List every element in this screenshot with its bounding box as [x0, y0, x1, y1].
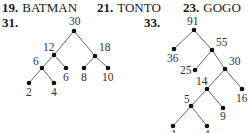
tree-node — [27, 81, 32, 86]
tree-node-label: 1 — [171, 128, 177, 133]
tree-edge — [191, 106, 207, 126]
tree-edge — [54, 31, 74, 55]
tree-node — [192, 28, 197, 33]
tree-node — [172, 47, 177, 52]
tree-node-label: 30 — [69, 15, 81, 27]
tree-node — [52, 81, 57, 86]
tree-edge — [195, 50, 212, 70]
tree-edge — [174, 30, 194, 49]
tree-figure-33: 913655253014165914 — [167, 15, 248, 133]
tree-node — [106, 66, 111, 71]
tree-diagrams: 3012186681024913655253014165914 — [0, 0, 249, 133]
tree-node-label: 6 — [33, 55, 39, 67]
tree-figure-31: 3012186681024 — [26, 15, 114, 98]
tree-edge — [42, 68, 54, 83]
tree-edge — [42, 55, 54, 68]
tree-node-label: 9 — [220, 110, 226, 122]
tree-edge — [173, 106, 191, 126]
tree-node-label: 5 — [184, 93, 190, 105]
tree-node-label: 30 — [229, 55, 241, 67]
tree-node-label: 2 — [26, 86, 32, 98]
tree-node — [223, 67, 228, 72]
tree-node-label: 55 — [216, 36, 228, 48]
tree-node-label: 4 — [204, 128, 210, 133]
tree-edge — [54, 55, 66, 68]
tree-node-label: 25 — [180, 64, 192, 76]
tree-node — [40, 66, 45, 71]
tree-node-label: 4 — [51, 86, 57, 98]
tree-edge — [207, 89, 223, 108]
tree-node-label: 36 — [167, 52, 179, 64]
tree-node-label: 10 — [102, 71, 114, 83]
tree-node-label: 8 — [81, 71, 87, 83]
tree-edge — [212, 50, 225, 69]
tree-node — [52, 53, 57, 58]
tree-node-label: 6 — [63, 71, 69, 83]
tree-node-label: 14 — [196, 75, 208, 87]
tree-node-label: 91 — [187, 15, 199, 27]
tree-node — [82, 66, 87, 71]
tree-edge — [207, 69, 225, 89]
tree-node — [210, 48, 215, 53]
tree-edge — [29, 68, 42, 83]
tree-node — [193, 68, 198, 73]
tree-node-label: 18 — [99, 41, 111, 53]
tree-edge — [74, 31, 95, 56]
tree-node — [240, 87, 245, 92]
tree-node-label: 12 — [43, 41, 55, 53]
tree-node — [72, 29, 77, 34]
tree-edge — [95, 56, 108, 68]
tree-node — [64, 66, 69, 71]
tree-edge — [191, 89, 207, 106]
tree-edge — [194, 30, 212, 50]
tree-edge — [225, 69, 242, 89]
tree-node — [93, 54, 98, 59]
tree-node-label: 16 — [236, 92, 248, 104]
tree-node — [205, 87, 210, 92]
tree-edge — [84, 56, 95, 68]
